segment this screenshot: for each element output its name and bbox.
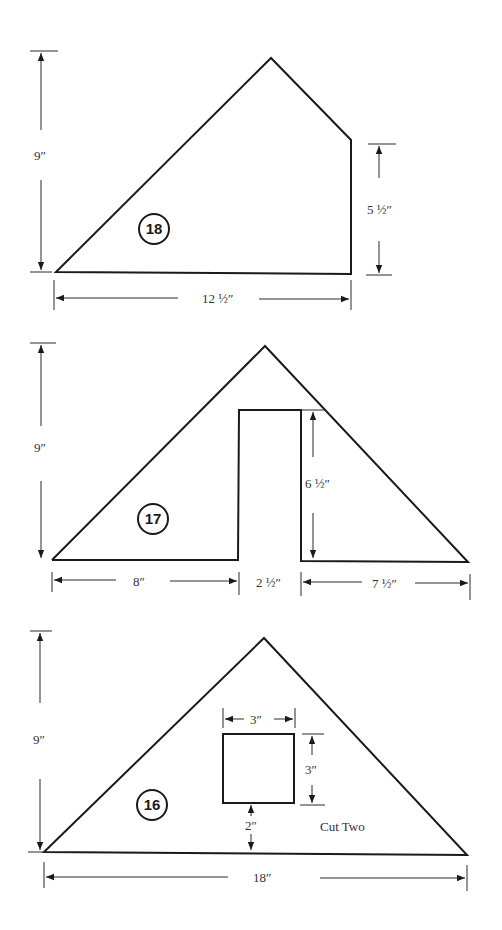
piece-16-window-height-label: 3″ [305, 762, 317, 777]
piece-16-base-label: 18″ [253, 870, 271, 885]
piece-17: 9″ 6 ½″ 8″ 2 ½″ 7 ½″ 17 [30, 343, 470, 600]
piece-18-height-label: 9″ [34, 148, 46, 163]
piece-16-window [223, 734, 294, 803]
piece-17-number-badge: 17 [138, 504, 168, 534]
piece-17-height-label: 9″ [34, 440, 46, 455]
piece-16-height-label: 9″ [33, 732, 45, 747]
piece-16-cut-note: Cut Two [320, 819, 365, 834]
piece-16-window-offset-label: 2″ [245, 818, 257, 833]
piece-16-window-offset-dimension: 2″ [245, 805, 257, 850]
piece-18-number: 18 [146, 220, 163, 237]
piece-17-number: 17 [145, 510, 162, 527]
piece-16-number-badge: 16 [137, 790, 167, 820]
piece-18: 9″ 5 ½″ 12 ½″ 18 [30, 51, 396, 310]
piece-16-base-dimension: 18″ [44, 862, 467, 891]
piece-16-height-dimension: 9″ [28, 631, 52, 852]
piece-17-right-base-label: 7 ½″ [372, 576, 397, 591]
piece-18-width-label: 12 ½″ [202, 291, 233, 306]
piece-17-left-base-label: 8″ [133, 574, 145, 589]
piece-18-number-badge: 18 [139, 214, 169, 244]
piece-17-notch-width-label: 2 ½″ [256, 575, 281, 590]
piece-18-right-height-label: 5 ½″ [367, 202, 392, 217]
piece-17-base-dimensions: 8″ 2 ½″ 7 ½″ [52, 572, 470, 600]
piece-17-height-dimension: 9″ [30, 343, 56, 558]
piece-16-number: 16 [144, 796, 161, 813]
diagram-canvas: 9″ 5 ½″ 12 ½″ 18 [0, 0, 502, 930]
piece-16-window-width-dimension: 3″ [223, 708, 295, 728]
piece-18-right-height-dimension: 5 ½″ [366, 144, 396, 275]
piece-18-outline [56, 58, 351, 274]
piece-18-height-dimension: 9″ [30, 51, 58, 272]
piece-18-width-dimension: 12 ½″ [54, 280, 351, 310]
piece-17-notch-height-dimension: 6 ½″ [302, 410, 330, 558]
piece-16-window-width-label: 3″ [250, 712, 262, 727]
piece-16: 9″ 3″ 3″ 2″ 18″ [28, 631, 467, 891]
piece-16-window-height-dimension: 3″ [300, 734, 325, 805]
piece-17-outline [52, 346, 468, 562]
piece-17-notch-height-label: 6 ½″ [305, 476, 330, 491]
